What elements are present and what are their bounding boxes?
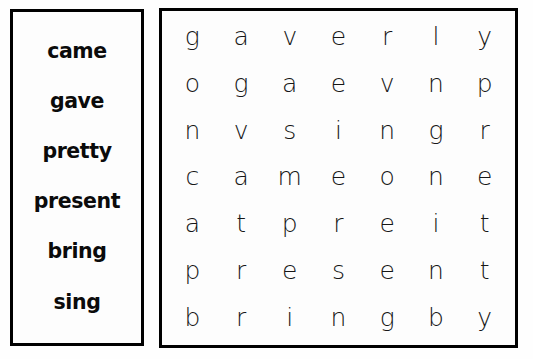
grid-cell[interactable]: n — [363, 107, 412, 154]
word-search-worksheet: came gave pretty present bring sing g a … — [0, 0, 533, 359]
grid-cell[interactable]: p — [460, 60, 509, 107]
grid-cell[interactable]: o — [363, 154, 412, 201]
grid-cell[interactable]: l — [412, 13, 461, 60]
grid-cell[interactable]: a — [217, 13, 266, 60]
grid-cell[interactable]: y — [460, 294, 509, 341]
grid-cell[interactable]: e — [314, 60, 363, 107]
letter-grid: g a v e r l y o g a e v n p n v s i n g … — [162, 11, 515, 345]
grid-cell[interactable]: i — [412, 200, 461, 247]
grid-cell[interactable]: y — [460, 13, 509, 60]
grid-cell[interactable]: e — [265, 247, 314, 294]
grid-cell[interactable]: e — [363, 200, 412, 247]
grid-cell[interactable]: t — [460, 247, 509, 294]
grid-cell[interactable]: e — [314, 154, 363, 201]
letter-grid-panel: g a v e r l y o g a e v n p n v s i n g … — [159, 8, 518, 348]
grid-cell[interactable]: r — [217, 247, 266, 294]
grid-cell[interactable]: i — [314, 107, 363, 154]
grid-cell[interactable]: n — [314, 294, 363, 341]
grid-cell[interactable]: g — [363, 294, 412, 341]
grid-cell[interactable]: n — [412, 154, 461, 201]
word-bank-item[interactable]: came — [47, 41, 107, 62]
grid-cell[interactable]: t — [217, 200, 266, 247]
grid-cell[interactable]: n — [412, 247, 461, 294]
word-bank-panel: came gave pretty present bring sing — [10, 9, 144, 346]
grid-cell[interactable]: e — [363, 247, 412, 294]
grid-cell[interactable]: a — [265, 60, 314, 107]
grid-cell[interactable]: g — [217, 60, 266, 107]
grid-cell[interactable]: o — [168, 60, 217, 107]
word-bank-item[interactable]: sing — [54, 292, 101, 313]
grid-cell[interactable]: i — [265, 294, 314, 341]
grid-cell[interactable]: e — [314, 13, 363, 60]
grid-cell[interactable]: e — [460, 154, 509, 201]
grid-cell[interactable]: c — [168, 154, 217, 201]
grid-cell[interactable]: v — [265, 13, 314, 60]
grid-cell[interactable]: r — [217, 294, 266, 341]
grid-cell[interactable]: a — [168, 200, 217, 247]
grid-cell[interactable]: r — [460, 107, 509, 154]
word-bank-item[interactable]: present — [34, 191, 120, 212]
grid-cell[interactable]: s — [314, 247, 363, 294]
grid-cell[interactable]: g — [168, 13, 217, 60]
grid-cell[interactable]: v — [217, 107, 266, 154]
grid-cell[interactable]: m — [265, 154, 314, 201]
grid-cell[interactable]: r — [314, 200, 363, 247]
word-bank-item[interactable]: bring — [47, 241, 106, 262]
grid-cell[interactable]: p — [168, 247, 217, 294]
grid-cell[interactable]: n — [412, 60, 461, 107]
grid-cell[interactable]: a — [217, 154, 266, 201]
grid-cell[interactable]: t — [460, 200, 509, 247]
grid-cell[interactable]: b — [168, 294, 217, 341]
grid-cell[interactable]: n — [168, 107, 217, 154]
grid-cell[interactable]: v — [363, 60, 412, 107]
grid-cell[interactable]: r — [363, 13, 412, 60]
word-bank-item[interactable]: gave — [50, 91, 104, 112]
grid-cell[interactable]: g — [412, 107, 461, 154]
grid-cell[interactable]: s — [265, 107, 314, 154]
word-bank-item[interactable]: pretty — [42, 141, 111, 162]
grid-cell[interactable]: b — [412, 294, 461, 341]
grid-cell[interactable]: p — [265, 200, 314, 247]
